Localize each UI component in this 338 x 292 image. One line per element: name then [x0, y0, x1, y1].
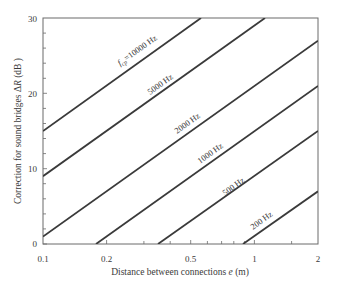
x-tick-label-0.5: 0.5	[185, 254, 197, 264]
chart: 0 10 20 30 0.1 0.2 0.5 1 2 Distance betw…	[0, 0, 338, 292]
x-tick-label-0.2: 0.2	[101, 254, 112, 264]
curve-10000hz	[43, 18, 201, 131]
curve-label-500hz: 500 Hz	[220, 175, 246, 198]
y-tick-label-0: 0	[33, 239, 38, 249]
curve-label-2000hz: 2000 Hz	[172, 110, 202, 135]
y-axis-label: Correction for sound bridges ΔR (dB )	[13, 58, 24, 204]
x-axis-label: Distance between connections e (m)	[111, 267, 249, 278]
curve-2000hz	[43, 41, 318, 237]
y-axis-ticks	[43, 33, 47, 244]
curve-label-200hz: 200 Hz	[248, 209, 274, 232]
y-tick-label-20: 20	[28, 89, 38, 99]
curve-200hz	[243, 191, 318, 244]
x-tick-label-0.1: 0.1	[37, 254, 48, 264]
x-tick-label-2: 2	[316, 254, 321, 264]
y-tick-label-10: 10	[28, 164, 38, 174]
x-tick-label-1: 1	[252, 254, 257, 264]
curve-1000hz	[96, 86, 318, 244]
y-tick-label-30: 30	[28, 14, 38, 24]
x-axis-ticks	[107, 240, 292, 244]
